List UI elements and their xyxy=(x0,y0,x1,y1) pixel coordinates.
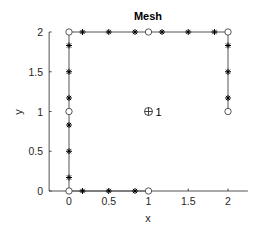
edge-node-marker xyxy=(106,188,112,194)
element-label: 1 xyxy=(156,106,162,118)
x-tick-label: 1.5 xyxy=(181,195,196,207)
edge-node-marker xyxy=(185,29,191,35)
edge-node-marker xyxy=(66,69,72,75)
x-tick-label: 0.5 xyxy=(101,195,116,207)
edge-node-marker xyxy=(211,29,217,35)
y-tick-label: 0.5 xyxy=(29,145,44,157)
vertex-marker xyxy=(145,29,151,35)
x-tick-label: 0 xyxy=(66,195,72,207)
vertex-marker xyxy=(225,108,231,114)
edge-node-marker xyxy=(66,95,72,101)
edge-node-marker xyxy=(132,29,138,35)
edge-node-marker xyxy=(106,29,112,35)
element-center-marker xyxy=(145,108,153,116)
edge-node-marker xyxy=(132,188,138,194)
x-tick-label: 1 xyxy=(146,195,152,207)
vertex-marker xyxy=(225,29,231,35)
x-axis-label: x xyxy=(145,212,151,224)
edge-node-marker xyxy=(225,43,231,49)
y-tick-label: 1.5 xyxy=(29,66,44,78)
vertex-marker xyxy=(145,188,151,194)
edge-node-marker xyxy=(80,29,86,35)
edge-node-marker xyxy=(225,69,231,75)
edge-node-marker xyxy=(66,122,72,128)
y-axis-label: y xyxy=(12,109,24,115)
x-tick-label: 2 xyxy=(225,195,231,207)
edge-node-marker xyxy=(80,188,86,194)
vertex-marker xyxy=(66,29,72,35)
y-tick-label: 0 xyxy=(37,185,43,197)
mesh-chart: Mesh 00.511.5200.511.52 1 x y xyxy=(0,0,260,235)
chart-title: Mesh xyxy=(134,10,162,22)
edge-node-marker xyxy=(66,148,72,154)
vertex-marker xyxy=(66,188,72,194)
vertex-marker xyxy=(66,108,72,114)
edge-node-marker xyxy=(66,174,72,180)
edge-node-marker xyxy=(159,29,165,35)
y-tick-label: 2 xyxy=(37,26,43,38)
edge-node-marker xyxy=(66,43,72,49)
y-tick-label: 1 xyxy=(37,106,43,118)
edge-node-marker xyxy=(225,95,231,101)
